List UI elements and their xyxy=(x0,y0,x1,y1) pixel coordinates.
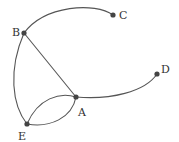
node-c xyxy=(110,12,115,17)
label-a: A xyxy=(77,106,87,119)
label-c: C xyxy=(119,9,127,22)
label-e: E xyxy=(18,130,26,142)
edge-a-d xyxy=(76,74,157,98)
label-d: D xyxy=(161,63,170,76)
node-e xyxy=(24,121,29,126)
node-a xyxy=(73,94,78,99)
edge-e-a-upper xyxy=(27,95,76,124)
edge-b-c xyxy=(24,8,113,33)
node-d xyxy=(154,71,159,76)
node-b xyxy=(21,30,26,35)
edge-b-a xyxy=(24,33,76,97)
graph-diagram: A B C D E xyxy=(0,0,179,142)
label-b: B xyxy=(12,26,20,39)
edge-b-e xyxy=(14,33,27,124)
